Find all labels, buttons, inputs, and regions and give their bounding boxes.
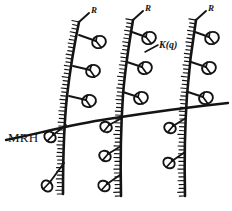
kq-label: K(q) [158,39,177,51]
botanical-line-diagram: MRH K(q) R R R [0,0,232,211]
r-label-stem-3: R [207,3,214,13]
figure-canvas: MRH K(q) R R R [0,0,232,211]
mrh-label: MRH [8,130,38,145]
r-label-stem-2: R [144,3,151,13]
r-label-stem-1: R [90,5,97,15]
